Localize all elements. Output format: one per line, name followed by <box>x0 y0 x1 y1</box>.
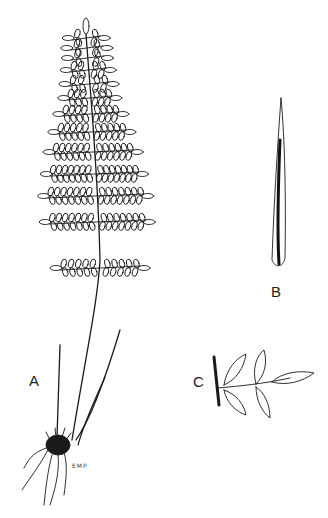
panel-label-c: C <box>193 373 204 390</box>
panel-label-b: B <box>271 283 281 300</box>
panel-label-a: A <box>29 372 39 389</box>
frond-a <box>22 18 155 505</box>
botanical-illustration <box>0 0 328 518</box>
scale-b <box>272 98 285 266</box>
artist-signature: EMP <box>72 462 88 469</box>
pinna-c <box>214 350 314 418</box>
